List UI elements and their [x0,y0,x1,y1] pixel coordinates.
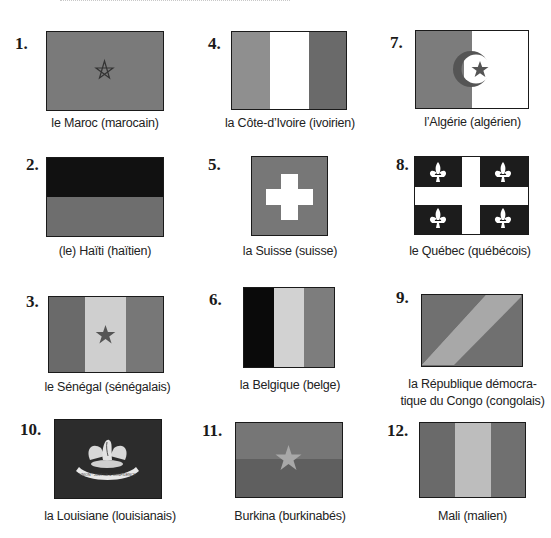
pelican-seal-icon: UNION · JUSTICE & CONFIDENCE [55,420,160,497]
algeria-flag [415,30,529,109]
flag-number-9: 9. [396,288,409,308]
flag-caption-9-line2: tique du Congo (congolais) [395,393,550,410]
flag-caption-8: le Québec (québécois) [390,243,550,260]
flag-caption-12: Mali (malien) [395,508,550,525]
louisiana-flag: UNION · JUSTICE & CONFIDENCE [54,419,162,499]
haiti-flag [46,157,164,237]
flag-caption-9-line1: la République démocra- [395,376,550,393]
flag-number-8: 8. [396,155,409,175]
flag-number-12: 12. [387,421,408,441]
cote-divoire-flag [231,31,347,110]
flag-caption-3: le Sénégal (sénégalais) [25,379,190,396]
flag-number-2: 2. [26,155,39,175]
mali-flag [419,422,526,498]
morocco-flag [46,31,164,111]
flag-caption-11: Burkina (burkinabés) [210,508,370,525]
star-icon [236,423,341,496]
flag-caption-2: (le) Haïti (haïtien) [30,243,180,260]
flag-caption-9: la République démocra- tique du Congo (c… [395,376,550,410]
fleur-de-lis-icon [415,157,527,233]
flag-caption-4: la Côte-d’Ivoire (ivoirien) [205,115,375,132]
svg-text:UNION · JUSTICE & CONFIDENCE: UNION · JUSTICE & CONFIDENCE [79,473,136,477]
flag-number-11: 11. [202,421,222,441]
flag-number-5: 5. [208,155,221,175]
flag-caption-10: la Louisiane (louisianais) [30,508,190,525]
flag-number-1: 1. [15,34,28,54]
quebec-flag [414,156,529,235]
star-icon [49,297,162,371]
flag-number-3: 3. [26,292,39,312]
flag-number-7: 7. [390,33,403,53]
flag-number-6: 6. [209,290,222,310]
crescent-star-icon [416,31,527,107]
flag-caption-7: l’Algérie (algérien) [395,114,550,131]
flag-caption-5: la Suisse (suisse) [215,243,365,260]
flag-number-4: 4. [208,34,221,54]
drc-flag [421,294,523,367]
senegal-flag [48,296,164,373]
cropped-header-text [60,0,290,4]
burkina-flag [235,422,343,498]
belgium-flag [243,287,335,368]
flag-caption-1: le Maroc (marocain) [30,115,180,132]
flag-number-10: 10. [20,420,41,440]
pentagram-star-icon [47,32,162,109]
switzerland-flag [251,156,328,236]
flag-caption-6: la Belgique (belge) [215,377,365,394]
diagonal-band-icon [422,295,521,365]
